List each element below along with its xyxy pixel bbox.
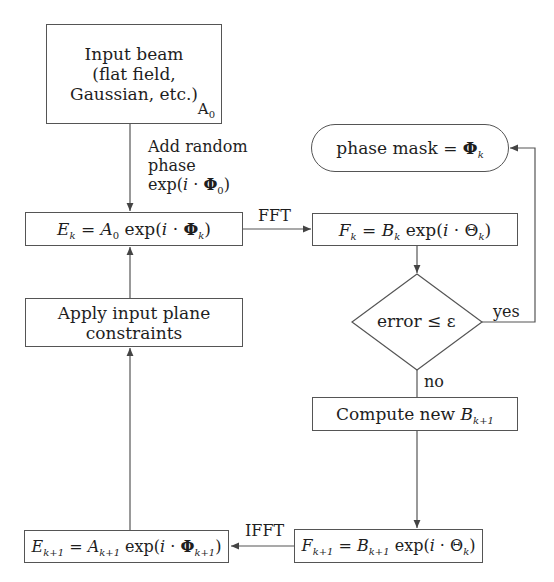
input-beam-line2: (flat field, <box>92 64 175 84</box>
phase-mask-terminal: phase mask = Φk <box>311 124 509 172</box>
input-beam-box: Input beam (flat field, Gaussian, etc.) … <box>46 24 222 124</box>
ek1-box: Ek+1 = Ak+1 exp(i · Φk+1) <box>24 530 229 563</box>
input-beam-line3: Gaussian, etc.) <box>70 84 198 104</box>
fft-label: FFT <box>258 206 291 225</box>
fk-box: Fk = Bk exp(i · Θk) <box>312 213 518 246</box>
yes-label: yes <box>493 302 520 321</box>
ek-box: Ek = A0 exp(i · Φk) <box>25 212 243 246</box>
input-beam-line1: Input beam <box>85 44 184 64</box>
no-label: no <box>424 372 444 391</box>
compute-b-box: Compute new Bk+1 <box>312 397 518 431</box>
ifft-label: IFFT <box>245 521 284 540</box>
decision-label: error ≤ ε <box>377 312 456 331</box>
apply-constraints-box: Apply input plane constraints <box>25 298 243 347</box>
fk1-box: Fk+1 = Bk+1 exp(i · Θk) <box>294 529 483 563</box>
add-random-phase-label: Add random phase exp(i · Φ0) <box>148 137 248 194</box>
amplitude-label: A0 <box>198 99 215 119</box>
